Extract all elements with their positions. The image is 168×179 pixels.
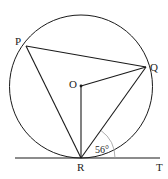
- geometry-diagram: P Q O R T 56°: [0, 0, 168, 179]
- chord-qr: [81, 67, 146, 158]
- chord-pq: [26, 46, 146, 67]
- radius-oq: [81, 67, 146, 86]
- label-t: T: [156, 161, 163, 173]
- label-q: Q: [150, 61, 158, 73]
- centre-point-o: [80, 85, 83, 88]
- angle-label: 56°: [95, 144, 109, 155]
- diagram-canvas: P Q O R T 56°: [0, 0, 168, 179]
- label-o: O: [69, 78, 77, 90]
- label-r: R: [77, 161, 85, 173]
- label-p: P: [15, 35, 21, 47]
